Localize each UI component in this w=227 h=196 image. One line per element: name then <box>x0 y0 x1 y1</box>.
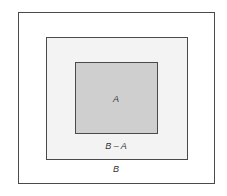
label-b: B <box>86 164 146 174</box>
label-b-minus-a: B – A <box>86 141 146 151</box>
label-a: A <box>86 94 146 104</box>
